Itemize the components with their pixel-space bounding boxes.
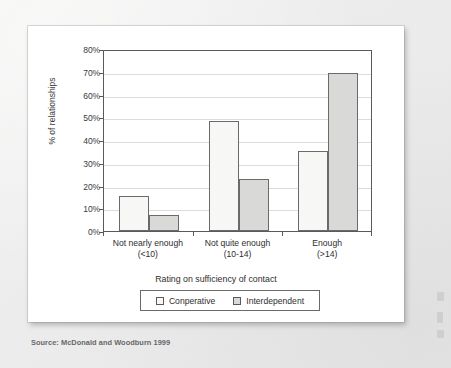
plot-area [103,50,372,232]
bar [209,121,239,231]
figure-panel: % of relationships 0%10%20%30%40%50%60%7… [28,26,404,322]
category-label-line2: (<10) [103,249,193,260]
bar-chart: % of relationships 0%10%20%30%40%50%60%7… [28,26,404,322]
chart-legend: ConperativeInterdependent [140,290,320,311]
scan-artifact-mark [437,312,443,323]
category-label-line1: Not quite enough [205,238,270,248]
legend-label: Interdependent [246,296,304,306]
x-axis-tick-mark [282,232,283,236]
x-axis-tick-mark [103,232,104,236]
y-axis-tick-marks [28,50,108,232]
x-axis-category-label: Not quite enough(10-14) [193,238,283,260]
scan-artifact-mark [437,292,444,301]
bar [239,179,269,231]
category-label-line2: (>14) [282,249,372,260]
category-label-line2: (10-14) [193,249,283,260]
source-caption: Source: McDonald and Woodburn 1999 [31,338,170,347]
legend-item: Conperative [156,296,215,306]
x-axis-category-label: Enough(>14) [282,238,372,260]
bar [119,196,149,231]
legend-item: Interdependent [233,296,304,306]
legend-swatch-icon [233,297,241,305]
x-axis-category-labels: Not nearly enough(<10)Not quite enough(1… [103,238,372,268]
bar [298,151,328,231]
category-label-line1: Not nearly enough [113,238,183,248]
category-label-line1: Enough [312,238,342,248]
x-axis-category-label: Not nearly enough(<10) [103,238,193,260]
legend-label: Conperative [169,296,215,306]
legend-swatch-icon [156,297,164,305]
bar [328,73,358,231]
x-axis-tick-mark [371,232,372,236]
bar [149,215,179,231]
scan-artifact-mark [437,330,444,338]
x-axis-tick-mark [193,232,194,236]
x-axis-title: Rating on sufficiency of contact [28,274,404,284]
page-background: % of relationships 0%10%20%30%40%50%60%7… [0,0,451,368]
